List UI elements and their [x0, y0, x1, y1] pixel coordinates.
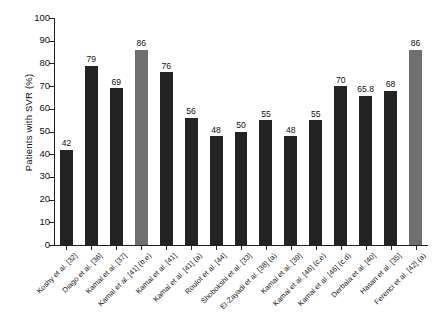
bar-value-label: 50	[236, 120, 246, 130]
bar: 86	[135, 50, 148, 245]
bar-value-label: 70	[336, 75, 346, 85]
bar-value-label: 76	[161, 61, 171, 71]
bar-value-label: 48	[286, 125, 296, 135]
bar-value-label: 86	[411, 38, 421, 48]
y-tick-label: 100	[34, 12, 50, 23]
bar-value-label: 55	[261, 109, 271, 119]
bar: 48	[210, 136, 223, 245]
bar: 76	[160, 72, 173, 245]
y-tick-label: 70	[39, 80, 50, 91]
bar-value-label: 86	[136, 38, 146, 48]
bar-value-label: 42	[62, 138, 72, 148]
bar-value-label: 56	[186, 106, 196, 116]
y-tick-label: 60	[39, 102, 50, 113]
y-tick-label: 90	[39, 34, 50, 45]
bar-value-label: 55	[311, 109, 321, 119]
bar: 56	[185, 118, 198, 245]
plot-area: 0102030405060708090100 42796986765648505…	[54, 18, 428, 245]
bar: 70	[334, 86, 347, 245]
bar: 55	[259, 120, 272, 245]
bar: 86	[409, 50, 422, 245]
bar: 79	[85, 66, 98, 245]
bar-value-label: 79	[87, 54, 97, 64]
y-tick-label: 40	[39, 148, 50, 159]
y-tick-label: 0	[45, 239, 50, 250]
bar-value-label: 68	[386, 79, 396, 89]
bar: 55	[309, 120, 322, 245]
y-tick-label: 10	[39, 216, 50, 227]
y-tick-label: 50	[39, 125, 50, 136]
bar-value-label: 65.8	[357, 84, 374, 94]
bar: 42	[60, 150, 73, 245]
bar-value-label: 48	[211, 125, 221, 135]
bar-chart-figure: Patients with SVR (%) 010203040506070809…	[0, 0, 434, 326]
y-tick-label: 80	[39, 57, 50, 68]
y-tick-label: 20	[39, 193, 50, 204]
bar-value-label: 69	[112, 77, 122, 87]
bar: 69	[110, 88, 123, 245]
y-axis-line	[54, 18, 55, 245]
bar: 65.8	[359, 96, 372, 245]
y-axis-title: Patients with SVR (%)	[23, 38, 34, 208]
bar: 68	[384, 91, 397, 245]
y-tick-label: 30	[39, 170, 50, 181]
bar: 48	[284, 136, 297, 245]
x-axis-labels: Koshy et al. [32]Diago et al. [36]Kamal …	[54, 245, 428, 326]
bar: 50	[235, 132, 248, 246]
